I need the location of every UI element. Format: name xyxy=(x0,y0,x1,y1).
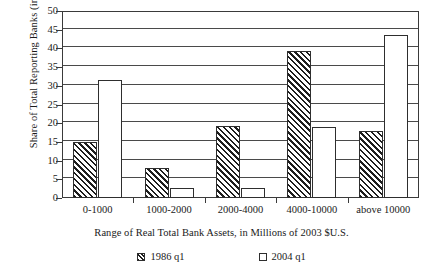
y-axis-tick-mark xyxy=(56,198,62,199)
x-axis-tick-mark xyxy=(205,198,206,203)
legend-label: 1986 q1 xyxy=(150,251,184,262)
legend-label: 2004 q1 xyxy=(272,251,306,262)
x-axis-tick-mark xyxy=(276,198,277,203)
bar-1986q1 xyxy=(73,142,97,198)
x-axis-tick-label: above 10000 xyxy=(328,204,438,215)
legend-swatch-1986q1 xyxy=(137,253,145,261)
bar-chart-figure: Share of Total Reporting Banks (in %) 05… xyxy=(0,0,443,272)
y-axis-tick-label: 45 xyxy=(18,24,58,35)
bar-group xyxy=(216,11,265,198)
legend-entry: 1986 q1 xyxy=(137,251,184,262)
y-axis-tick-label: 0 xyxy=(18,193,58,204)
y-axis-tick-label: 15 xyxy=(18,137,58,148)
y-axis-tick-label: 5 xyxy=(18,174,58,185)
bar-group-container xyxy=(62,11,419,198)
bar-2004q1 xyxy=(384,35,408,198)
legend-swatch-2004q1 xyxy=(259,253,267,261)
y-axis-tick-label: 20 xyxy=(18,118,58,129)
bar-2004q1 xyxy=(170,188,194,198)
y-axis-tick-label: 25 xyxy=(18,99,58,110)
bar-2004q1 xyxy=(312,127,336,198)
legend-entry: 2004 q1 xyxy=(259,251,306,262)
y-axis-tick-label: 50 xyxy=(18,6,58,17)
bar-group xyxy=(287,11,336,198)
bar-2004q1 xyxy=(98,80,122,198)
bar-group xyxy=(359,11,408,198)
x-axis-tick-mark xyxy=(348,198,349,203)
bar-1986q1 xyxy=(359,131,383,198)
y-axis-tick-label: 35 xyxy=(18,62,58,73)
bar-2004q1 xyxy=(241,188,265,198)
x-axis-tick-mark xyxy=(133,198,134,203)
x-axis-title: Range of Real Total Bank Assets, in Mill… xyxy=(0,227,443,238)
bar-1986q1 xyxy=(145,168,169,198)
bar-group xyxy=(145,11,194,198)
bar-1986q1 xyxy=(216,126,240,198)
bar-1986q1 xyxy=(287,51,311,198)
chart-legend: 1986 q12004 q1 xyxy=(0,251,443,262)
y-axis-tick-label: 10 xyxy=(18,155,58,166)
y-axis-tick-label: 40 xyxy=(18,43,58,54)
y-axis-tick-label: 30 xyxy=(18,81,58,92)
bar-group xyxy=(73,11,122,198)
